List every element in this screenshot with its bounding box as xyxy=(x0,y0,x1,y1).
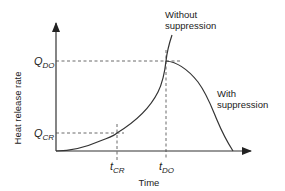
without-suppression-label: Without suppression xyxy=(165,9,216,31)
t-do-label: tDO xyxy=(159,160,174,175)
y-axis-label: Heat release rate xyxy=(12,72,23,145)
heat-release-diagram: Heat release rate Time QDO QCR tCR tDO W… xyxy=(0,0,285,191)
growth-curve xyxy=(56,61,166,151)
without-suppression-curve xyxy=(166,35,172,61)
with-suppression-label: With suppression xyxy=(217,88,268,110)
q-cr-label: QCR xyxy=(34,127,54,142)
t-cr-label: tCR xyxy=(110,160,125,175)
x-axis-label: Time xyxy=(139,177,160,188)
q-do-label: QDO xyxy=(34,55,55,70)
